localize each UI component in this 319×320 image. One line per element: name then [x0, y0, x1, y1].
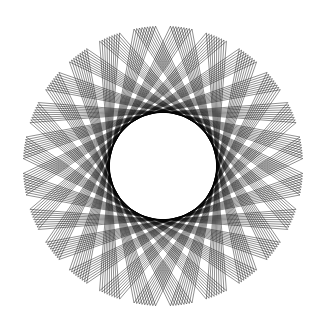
inner-circle	[114, 117, 212, 215]
rosette-figure	[0, 0, 319, 320]
